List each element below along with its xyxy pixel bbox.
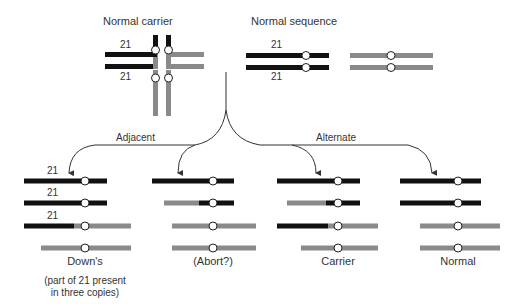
branch-trunk-left xyxy=(195,72,226,145)
chromosome-arm-other xyxy=(170,64,204,69)
translocation-diagram: Normal carrier Normal sequence 21 21 21 … xyxy=(0,0,519,304)
outcome-note: (part of 21 present xyxy=(44,275,126,286)
branch-trunk-right xyxy=(226,110,260,145)
centromere-icon xyxy=(209,222,217,230)
normal-sequence-title: Normal sequence xyxy=(251,15,337,27)
outcome-label: Normal xyxy=(440,255,475,267)
chromosome-arm-21 xyxy=(105,52,155,57)
centromere-icon xyxy=(209,177,217,185)
centromere-icon xyxy=(454,199,462,207)
centromere-icon xyxy=(334,177,342,185)
chromosome-label: 21 xyxy=(120,71,132,82)
chromosome-label: 21 xyxy=(47,210,59,221)
chromosome-21-segment xyxy=(400,201,481,206)
outcome-group: 212121Down's(part of 21 presentin three … xyxy=(24,165,131,298)
outcome-label: (Abort?) xyxy=(193,255,233,267)
centromere-icon xyxy=(152,46,160,54)
chromosome-arm-other xyxy=(166,52,171,69)
centromere-icon xyxy=(387,52,395,60)
arrow-downs xyxy=(69,145,195,173)
centromere-icon xyxy=(454,244,462,252)
arrow-abort xyxy=(178,145,195,173)
centromere-icon xyxy=(81,199,89,207)
normal-carrier-figure: 21 21 xyxy=(105,35,204,116)
centromere-icon xyxy=(165,46,173,54)
chromosome-arm-21 xyxy=(105,64,157,69)
chromosome-21-segment xyxy=(277,224,328,229)
centromere-icon xyxy=(209,244,217,252)
alternate-label: Alternate xyxy=(316,132,356,143)
chromosome-21-segment xyxy=(24,201,107,206)
centromere-icon xyxy=(209,199,217,207)
normal-carrier-title: Normal carrier xyxy=(103,15,173,27)
centromere-icon xyxy=(81,244,89,252)
chromosome-other-segment xyxy=(164,201,199,206)
outcome-label: Carrier xyxy=(321,255,355,267)
centromere-icon xyxy=(334,222,342,230)
centromere-icon xyxy=(302,52,310,60)
outcome-label: Down's xyxy=(67,255,103,267)
outcome-group: (Abort?) xyxy=(152,177,256,267)
outcome-group: Normal xyxy=(400,177,500,267)
centromere-icon xyxy=(165,74,173,82)
chromosome-label: 21 xyxy=(47,165,59,176)
chromosome-21-segment xyxy=(152,179,234,184)
chromosome-other-segment xyxy=(287,201,326,206)
chromosome-label: 21 xyxy=(120,39,132,50)
chromosome-label: 21 xyxy=(271,71,283,82)
chromosome-arm-other xyxy=(168,52,204,57)
outcome-groups: 212121Down's(part of 21 presentin three … xyxy=(24,165,500,298)
segregation-arrows xyxy=(69,72,432,173)
adjacent-label: Adjacent xyxy=(116,132,155,143)
chromosome-21-segment xyxy=(277,179,360,184)
centromere-icon xyxy=(302,64,310,72)
chromosome-21 xyxy=(246,53,329,58)
centromere-icon xyxy=(81,177,89,185)
centromere-icon xyxy=(152,74,160,82)
chromosome-label: 21 xyxy=(47,187,59,198)
chromosome-label: 21 xyxy=(271,39,283,50)
centromere-icon xyxy=(454,177,462,185)
chromosome-21 xyxy=(246,65,329,70)
outcome-group: Carrier xyxy=(277,177,378,267)
centromere-icon xyxy=(334,199,342,207)
chromosome-21-segment xyxy=(24,179,107,184)
centromere-icon xyxy=(387,64,395,72)
centromere-icon xyxy=(454,222,462,230)
normal-sequence-figure: 21 21 xyxy=(246,39,433,82)
outcome-note: in three copies) xyxy=(51,287,119,298)
chromosome-21-segment xyxy=(326,201,360,206)
centromere-icon xyxy=(81,222,89,230)
arrow-carrier xyxy=(260,145,316,173)
chromosome-21-segment xyxy=(24,224,74,229)
centromere-icon xyxy=(334,244,342,252)
chromosome-21-segment xyxy=(400,179,481,184)
